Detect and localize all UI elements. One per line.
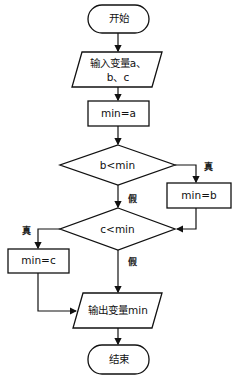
true-tag-b: 真 xyxy=(204,160,213,173)
assign-b-label: min=b xyxy=(167,189,231,202)
input-label-line2: b、c xyxy=(74,71,162,84)
false-tag-c: 假 xyxy=(128,255,137,268)
end-label: 结束 xyxy=(88,353,149,366)
cond-b-label: b<min xyxy=(60,159,175,172)
start-label: 开始 xyxy=(88,12,149,25)
cond-c-label: c<min xyxy=(60,223,175,236)
false-tag-b: 假 xyxy=(128,192,137,205)
input-label-line1: 输入变量a、 xyxy=(74,57,162,70)
true-tag-c: 真 xyxy=(22,224,31,237)
output-label: 输出变量min xyxy=(74,304,162,317)
assign-c-label: min=c xyxy=(8,254,69,267)
assign-a-label: min=a xyxy=(88,107,149,120)
